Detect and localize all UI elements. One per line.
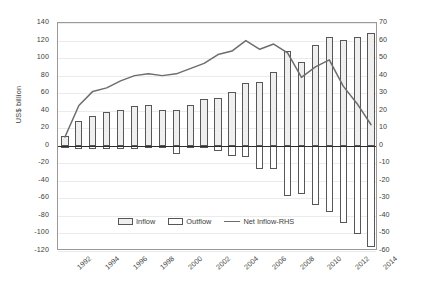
y-tick-left-100: 100 [5,53,49,61]
net-inflow-polyline [65,41,371,137]
x-tick-2010: 2010 [325,254,343,271]
y-tick-right--30: -30 [379,193,423,201]
y-tick-right-50: 50 [379,53,423,61]
y-tick-right--10: -10 [379,158,423,166]
y-tick-right-60: 60 [379,36,423,44]
legend-label-outflow: Outflow [186,217,211,226]
y-tick-left-120: 120 [5,36,49,44]
y-tick-left-40: 40 [5,106,49,114]
inflow-swatch-icon [118,218,133,225]
y-tick-left--100: -100 [5,228,49,236]
y-tick-left--20: -20 [5,158,49,166]
y-tick-right--50: -50 [379,228,423,236]
y-tick-left--60: -60 [5,193,49,201]
y-tick-left-140: 140 [5,18,49,26]
y-tick-right--60: -60 [379,246,423,254]
x-tick-1996: 1996 [131,254,149,271]
y-tick-left-0: 0 [5,141,49,149]
y-tick-left-20: 20 [5,123,49,131]
legend-item-inflow: Inflow [118,217,155,226]
gridline [58,251,376,252]
plot-area [57,22,377,250]
x-tick-1994: 1994 [103,254,121,271]
y-tick-right-0: 0 [379,141,423,149]
chart-container: US$ billion 140120100806040200-20-40-60-… [0,0,434,283]
y-tick-right-10: 10 [379,123,423,131]
x-tick-2004: 2004 [242,254,260,271]
x-tick-2000: 2000 [186,254,204,271]
x-tick-2008: 2008 [298,254,316,271]
x-tick-2006: 2006 [270,254,288,271]
y-tick-right--20: -20 [379,176,423,184]
x-tick-1992: 1992 [75,254,93,271]
legend-item-net-inflow: Net Inflow-RHS [224,217,294,226]
y-tick-right--40: -40 [379,211,423,219]
y-tick-left--80: -80 [5,211,49,219]
chart-legend: Inflow Outflow Net Inflow-RHS [118,217,294,226]
y-tick-right-40: 40 [379,71,423,79]
y-tick-right-30: 30 [379,88,423,96]
legend-label-inflow: Inflow [136,217,155,226]
x-tick-2002: 2002 [214,254,232,271]
y-tick-left--120: -120 [5,246,49,254]
legend-item-outflow: Outflow [168,217,211,226]
line-swatch-icon [224,221,240,222]
y-tick-left-80: 80 [5,71,49,79]
x-tick-2012: 2012 [353,254,371,271]
y-tick-left--40: -40 [5,176,49,184]
y-tick-left-60: 60 [5,88,49,96]
x-tick-1998: 1998 [159,254,177,271]
legend-label-net-inflow: Net Inflow-RHS [243,217,294,226]
y-tick-right-20: 20 [379,106,423,114]
outflow-swatch-icon [168,218,183,225]
x-tick-2014: 2014 [381,254,399,271]
y-tick-right-70: 70 [379,18,423,26]
